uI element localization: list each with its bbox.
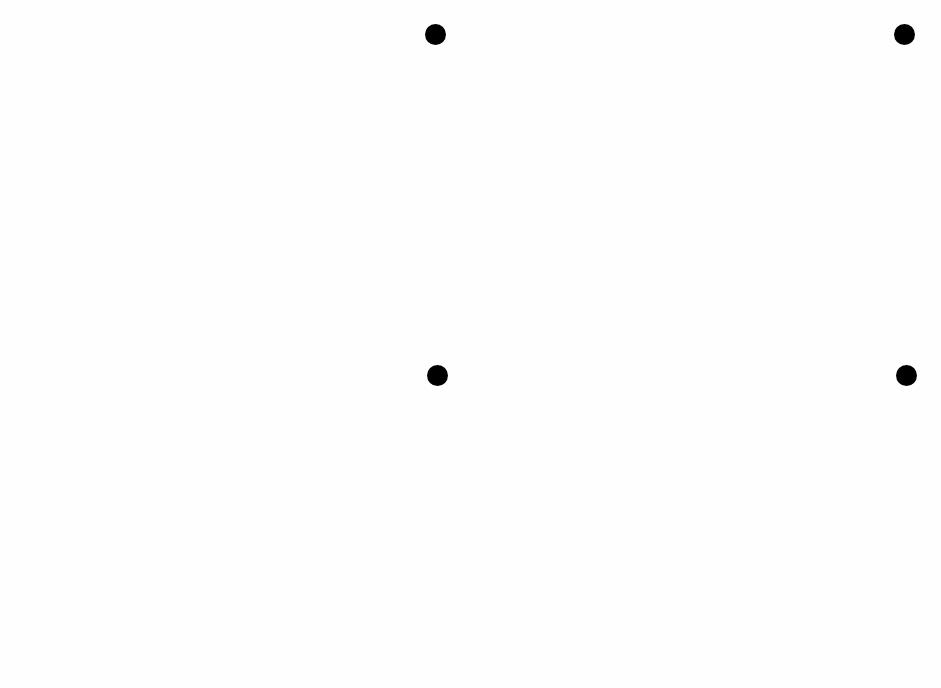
dot-top-right	[894, 24, 915, 45]
dot-middle-left	[427, 365, 448, 386]
blank-page	[0, 0, 941, 688]
dot-middle-right	[896, 365, 917, 386]
dot-top-left	[425, 24, 446, 45]
